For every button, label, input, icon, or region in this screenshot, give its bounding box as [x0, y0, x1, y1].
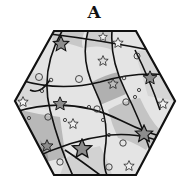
hexagon-fill [0, 0, 188, 185]
hexagon-diagram [0, 0, 188, 185]
